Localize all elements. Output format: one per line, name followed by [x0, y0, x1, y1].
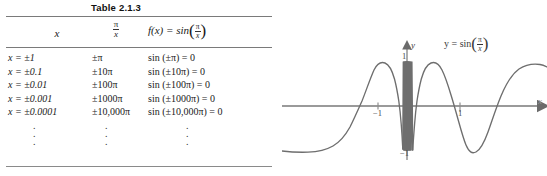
y-axis-tick-label-positive-one: 1 — [402, 51, 406, 61]
curve-sin-pi-over-x — [282, 62, 547, 153]
cell-x: x = ±0.0001 — [8, 106, 57, 117]
table-row: x = ±0.01 ±100π sin (±100π) = 0 — [0, 79, 282, 93]
table-row: x = ±1 ±π sin (±π) = 0 — [0, 52, 282, 66]
cell-pi-over-x: ±π — [92, 52, 103, 63]
fraction-numerator: π — [113, 20, 120, 29]
x-axis-tick-label-negative-one: −1 — [373, 108, 382, 118]
cell-x: x = ±0.01 — [8, 79, 47, 90]
cell-f-of-x: sin (±1000π) = 0 — [148, 93, 215, 104]
vertical-dots-icon: ... — [105, 122, 107, 146]
fraction-numerator: π — [477, 36, 483, 44]
fraction-denominator: x — [113, 29, 120, 39]
table-panel: Table 2.1.3 x π x f(x) = sin(πx) x = ±1 … — [0, 0, 282, 176]
graph-panel: y = sin(πx) y x −1 1 1 −1 — [282, 0, 547, 176]
cell-f-of-x: sin (±100π) = 0 — [148, 79, 210, 90]
table-continuation-dots: ... ... ... — [0, 122, 282, 156]
table-body: x = ±1 ±π sin (±π) = 0 x = ±0.1 ±10π sin… — [0, 52, 282, 120]
fraction-numerator: π — [195, 23, 201, 31]
curve-right-branch — [413, 63, 547, 153]
cell-f-of-x: sin (±10π) = 0 — [148, 66, 205, 77]
table-row: x = ±0.1 ±10π sin (±10π) = 0 — [0, 66, 282, 80]
table-header-pi-over-x: π x — [92, 20, 140, 40]
graph-equation-label: y = sin(πx) — [444, 36, 488, 53]
y-axis-tick-label-negative-one: −1 — [400, 148, 409, 158]
sine-curve-plot — [282, 0, 547, 176]
table-header-row: x π x f(x) = sin(πx) — [0, 19, 282, 46]
cell-x: x = ±0.1 — [8, 66, 42, 77]
equation-prefix: y = sin — [444, 38, 471, 49]
header-f-prefix: f(x) = sin — [148, 24, 189, 36]
cell-f-of-x: sin (±π) = 0 — [148, 52, 195, 63]
x-axis-label: x — [538, 96, 542, 106]
fraction-denominator: x — [477, 44, 483, 53]
vertical-dots-icon: ... — [186, 122, 188, 146]
header-close-paren: ) — [201, 21, 207, 40]
header-open-paren: ( — [189, 21, 195, 40]
x-axis-tick-label-positive-one: 1 — [458, 108, 462, 118]
table-title: Table 2.1.3 — [0, 2, 232, 13]
curve-dense-oscillation-right — [407, 62, 413, 150]
table-header-x: x — [22, 27, 92, 39]
table-rule-bottom — [6, 166, 272, 167]
fraction-pi-over-x-header: πx — [195, 23, 201, 40]
fraction-pi-over-x-equation: πx — [477, 36, 483, 53]
cell-pi-over-x: ±10,000π — [92, 106, 130, 117]
table-row: x = ±0.0001 ±10,000π sin (±10,000π) = 0 — [0, 106, 282, 120]
table-rule-middle — [6, 47, 272, 48]
curve-left-branch — [282, 63, 403, 153]
fraction-denominator: x — [195, 31, 201, 40]
y-axis-label: y — [411, 40, 415, 50]
table-rule-top — [6, 16, 272, 17]
cell-pi-over-x: ±100π — [92, 79, 118, 90]
cell-pi-over-x: ±1000π — [92, 93, 123, 104]
vertical-dots-icon: ... — [33, 122, 35, 146]
equation-open-paren: ( — [471, 34, 477, 53]
cell-f-of-x: sin (±10,000π) = 0 — [148, 106, 223, 117]
table-header-f-of-x: f(x) = sin(πx) — [148, 23, 258, 40]
table-row: x = ±0.001 ±1000π sin (±1000π) = 0 — [0, 93, 282, 107]
cell-pi-over-x: ±10π — [92, 66, 113, 77]
figure-table-and-graph: Table 2.1.3 x π x f(x) = sin(πx) x = ±1 … — [0, 0, 547, 176]
cell-x: x = ±1 — [8, 52, 35, 63]
equation-close-paren: ) — [483, 34, 489, 53]
fraction-pi-over-x: π x — [113, 20, 120, 40]
cell-x: x = ±0.001 — [8, 93, 52, 104]
